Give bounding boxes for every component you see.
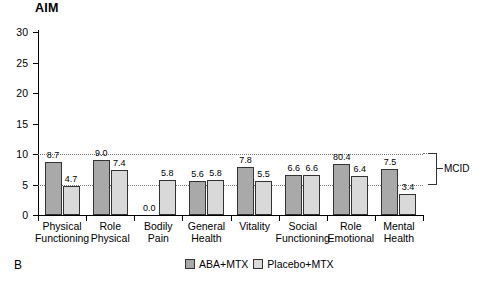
y-axis-tick bbox=[33, 32, 38, 33]
bar-value-label: 8.7 bbox=[36, 151, 70, 160]
x-axis-category-label: MentalHealth bbox=[367, 220, 431, 244]
y-axis-line bbox=[38, 30, 39, 217]
category-line: Health bbox=[174, 232, 238, 244]
y-axis-tick-label: 15 bbox=[2, 119, 28, 129]
y-axis-tick bbox=[33, 93, 38, 94]
y-axis-tick-label: 10 bbox=[2, 149, 28, 159]
y-axis-tick-label: 25 bbox=[2, 58, 28, 68]
bar bbox=[303, 175, 320, 215]
category-line: Mental bbox=[367, 220, 431, 232]
y-axis-tick bbox=[33, 63, 38, 64]
bar bbox=[111, 170, 128, 215]
bar-value-label: 3.4 bbox=[391, 183, 425, 192]
bar-value-label: 5.8 bbox=[198, 169, 232, 178]
bar bbox=[255, 181, 272, 215]
bar-value-label: 5.5 bbox=[247, 170, 281, 179]
chart-title: AIM bbox=[35, 1, 59, 15]
category-line: Health bbox=[367, 232, 431, 244]
legend-label: ABA+MTX bbox=[199, 258, 248, 270]
legend-swatch bbox=[185, 259, 195, 269]
bar bbox=[399, 194, 416, 215]
bar bbox=[63, 186, 80, 215]
legend-swatch bbox=[253, 259, 263, 269]
bar bbox=[93, 160, 110, 215]
y-axis-tick-label: 5 bbox=[2, 180, 28, 190]
bar-value-label: 7.8 bbox=[229, 156, 263, 165]
y-axis-tick bbox=[33, 124, 38, 125]
bar-value-label: 80.4 bbox=[325, 153, 359, 162]
legend-label: Placebo+MTX bbox=[267, 258, 333, 270]
bar-value-label: 4.7 bbox=[54, 175, 88, 184]
bar bbox=[189, 181, 206, 215]
y-axis-tick-label: 20 bbox=[2, 88, 28, 98]
chart-legend: ABA+MTXPlacebo+MTX bbox=[185, 258, 334, 270]
bar-value-label: 6.4 bbox=[343, 165, 377, 174]
bar-value-label: 9.0 bbox=[84, 149, 118, 158]
y-axis-tick-label: 30 bbox=[2, 27, 28, 37]
mcid-bracket-stem bbox=[437, 168, 443, 169]
mcid-bracket bbox=[428, 153, 437, 185]
bar bbox=[285, 175, 302, 215]
panel-letter: B bbox=[14, 258, 22, 272]
bar bbox=[351, 176, 368, 215]
y-axis-tick-label: 0 bbox=[2, 210, 28, 220]
bar bbox=[45, 162, 62, 215]
mcid-label: MCID bbox=[444, 163, 470, 174]
legend-item: ABA+MTX bbox=[185, 258, 248, 270]
bar-value-label: 6.6 bbox=[295, 164, 329, 173]
bar-value-label: 7.4 bbox=[102, 159, 136, 168]
bar-value-label: 7.5 bbox=[373, 158, 407, 167]
bar-value-label: 5.8 bbox=[150, 169, 184, 178]
legend-item: Placebo+MTX bbox=[253, 258, 333, 270]
bar bbox=[159, 180, 176, 215]
bar bbox=[207, 180, 224, 215]
